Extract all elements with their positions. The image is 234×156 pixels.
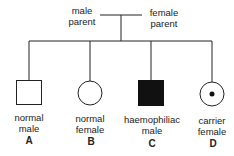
circle-open-icon bbox=[78, 81, 102, 105]
offspring-a-label: normalmale bbox=[9, 112, 49, 134]
offspring-b-label: normalfemale bbox=[70, 113, 110, 135]
square-open-icon bbox=[17, 81, 42, 105]
female-parent-label: femaleparent bbox=[146, 7, 182, 29]
offspring-d-label: carrierfemale bbox=[192, 115, 232, 137]
offspring-a-letter: A bbox=[14, 135, 44, 146]
offspring-c-letter: C bbox=[137, 138, 167, 149]
offspring-d-letter: D bbox=[198, 138, 228, 149]
male-parent-label: maleparent bbox=[66, 5, 98, 27]
square-filled-icon bbox=[139, 81, 164, 106]
offspring-b-letter: B bbox=[76, 136, 106, 147]
carrier-dot-icon bbox=[210, 92, 215, 97]
pedigree-diagram: maleparent femaleparent normalmale A nor… bbox=[0, 0, 234, 156]
offspring-c-label: haemophiliacmale bbox=[122, 114, 182, 136]
